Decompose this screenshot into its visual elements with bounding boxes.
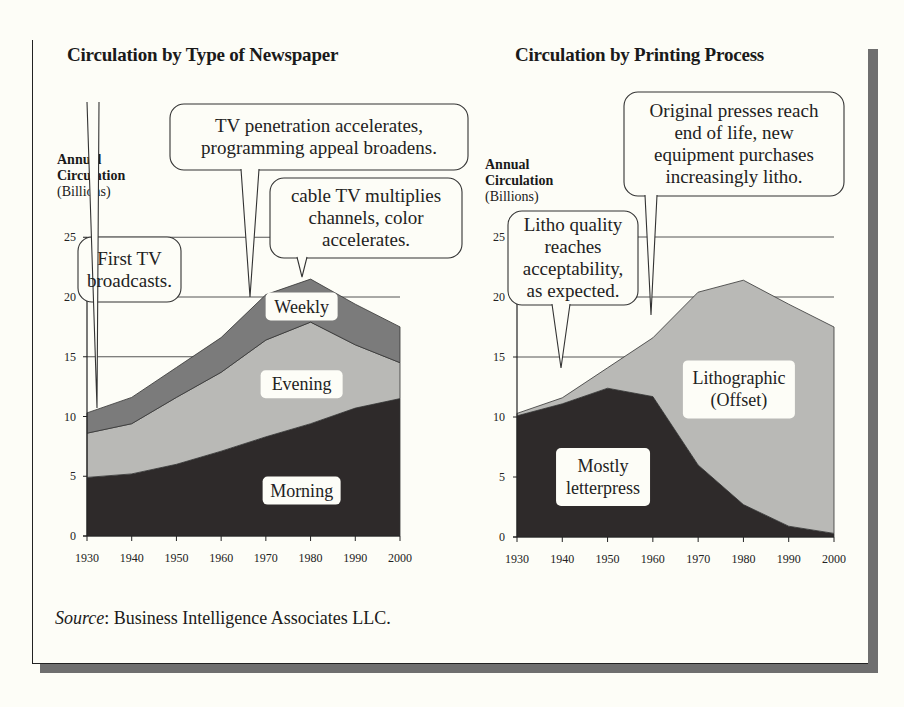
series-label: letterpress [566, 478, 640, 498]
callout-text: channels, color [308, 207, 424, 228]
y-tick-label: 15 [493, 350, 505, 364]
y-tick-label: 20 [64, 290, 76, 304]
callout-text: increasingly litho. [665, 166, 802, 187]
callout-text: equipment purchases [654, 144, 814, 165]
series-label: Lithographic [692, 368, 785, 388]
callout-text: programming appeal broadens. [201, 137, 437, 158]
x-tick-label: 2000 [388, 551, 412, 565]
callout-pointer [552, 304, 570, 368]
source-note: Source: Business Intelligence Associates… [55, 608, 391, 629]
y-tick-label: 0 [70, 529, 76, 543]
callout-pointer [297, 257, 307, 277]
callout-text: Litho quality [524, 214, 623, 235]
charts-canvas: 0510152025193019401950196019701980199020… [0, 0, 904, 707]
callout-text: acceptability, [523, 258, 624, 279]
callout-text: First TV [97, 248, 162, 269]
y-tick-label: 5 [499, 470, 505, 484]
callout-text: cable TV multiplies [291, 185, 441, 206]
y-tick-label: 10 [64, 410, 76, 424]
x-tick-label: 1970 [254, 551, 278, 565]
x-tick-label: 1930 [505, 552, 529, 566]
series-label: (Offset) [711, 390, 768, 411]
series-label: Weekly [274, 297, 329, 317]
series-label: Evening [272, 374, 332, 394]
x-tick-label: 1970 [686, 552, 710, 566]
x-tick-label: 1980 [731, 552, 755, 566]
y-tick-label: 10 [493, 410, 505, 424]
x-tick-label: 2000 [822, 552, 846, 566]
x-tick-label: 1930 [75, 551, 99, 565]
x-tick-label: 1950 [596, 552, 620, 566]
x-tick-label: 1950 [164, 551, 188, 565]
callout-pointer [241, 169, 259, 297]
right-chart-plot: 0510152025193019401950196019701980199020… [493, 92, 846, 566]
source-text: : Business Intelligence Associates LLC. [104, 608, 390, 628]
y-tick-label: 0 [499, 530, 505, 544]
callout-text: broadcasts. [87, 270, 172, 291]
y-tick-label: 15 [64, 350, 76, 364]
y-tick-label: 25 [493, 230, 505, 244]
x-tick-label: 1940 [120, 551, 144, 565]
x-tick-label: 1990 [343, 551, 367, 565]
left-chart-plot: 0510152025193019401950196019701980199020… [64, 102, 468, 565]
callout-text: accelerates. [322, 229, 410, 250]
x-tick-label: 1990 [777, 552, 801, 566]
callout-text: Original presses reach [650, 100, 819, 121]
callout-text: reaches [545, 236, 602, 257]
series-label: Mostly [578, 456, 629, 476]
source-label: Source [55, 608, 104, 628]
y-tick-label: 5 [70, 469, 76, 483]
callout-text: TV penetration accelerates, [215, 115, 423, 136]
x-tick-label: 1980 [299, 551, 323, 565]
series-label: Morning [270, 481, 333, 501]
x-tick-label: 1960 [641, 552, 665, 566]
y-tick-label: 25 [64, 230, 76, 244]
callout-text: as expected. [527, 280, 620, 301]
x-tick-label: 1940 [550, 552, 574, 566]
callout-text: end of life, new [674, 122, 794, 143]
y-tick-label: 20 [493, 290, 505, 304]
x-tick-label: 1960 [209, 551, 233, 565]
